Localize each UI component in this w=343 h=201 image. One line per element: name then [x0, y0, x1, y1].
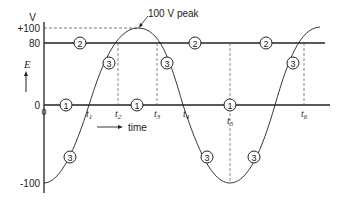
y-tick-0: 0 — [34, 100, 40, 111]
emf-arrow-head-icon — [24, 71, 28, 76]
marker-1-c: 1 — [224, 99, 236, 111]
t1-label: t1 — [86, 108, 92, 121]
time-labels: t1 t2 t3 t4 t5 t6 — [86, 108, 308, 128]
svg-text:3: 3 — [204, 153, 209, 163]
marker-2-a: 2 — [74, 37, 86, 49]
marker-3-b: 3 — [161, 57, 173, 69]
t3-label: t3 — [154, 108, 161, 121]
svg-text:2: 2 — [263, 39, 268, 49]
time-label: time — [128, 122, 147, 133]
emf-symbol: E — [23, 58, 31, 70]
svg-text:3: 3 — [164, 59, 169, 69]
svg-text:3: 3 — [251, 153, 256, 163]
peak-label: 100 V peak — [148, 8, 200, 19]
t6-label: t6 — [301, 108, 308, 121]
peak-arrow-head-icon — [139, 23, 143, 28]
marker-1-b: 1 — [131, 99, 143, 111]
t4-label: t4 — [183, 108, 190, 121]
svg-text:2: 2 — [77, 39, 82, 49]
sine-voltage-diagram: V +100 80 0 -100 E 0 100 V peak t1 t2 t3… — [0, 0, 343, 201]
svg-text:3: 3 — [106, 59, 111, 69]
svg-text:1: 1 — [134, 101, 139, 111]
marker-3-f: 3 — [287, 57, 299, 69]
svg-text:3: 3 — [67, 153, 72, 163]
y-tick-minus100: -100 — [20, 178, 40, 189]
marker-3-a: 3 — [103, 57, 115, 69]
marker-3-c: 3 — [64, 151, 76, 163]
marker-2-b: 2 — [189, 37, 201, 49]
t5-label: t5 — [227, 115, 234, 128]
marker-3-d: 3 — [201, 151, 213, 163]
origin-label: 0 — [41, 107, 46, 117]
y-tick-80: 80 — [29, 38, 41, 49]
t2-label: t2 — [115, 108, 122, 121]
svg-text:2: 2 — [192, 39, 197, 49]
svg-text:3: 3 — [290, 59, 295, 69]
svg-text:1: 1 — [227, 101, 232, 111]
y-unit-label: V — [29, 12, 36, 23]
marker-2-c: 2 — [260, 37, 272, 49]
time-arrow-head-icon — [118, 125, 123, 129]
marker-3-e: 3 — [248, 151, 260, 163]
y-tick-plus100: +100 — [17, 23, 40, 34]
marker-1-a: 1 — [60, 99, 72, 111]
svg-text:1: 1 — [63, 101, 68, 111]
